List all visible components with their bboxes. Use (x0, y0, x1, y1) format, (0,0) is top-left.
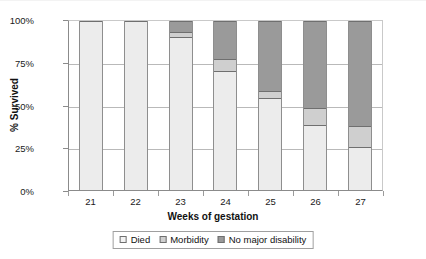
legend-item-no-major-disability[interactable]: No major disability (218, 234, 307, 245)
swatch-mid-icon (159, 236, 166, 243)
x-tick-label-21: 21 (71, 196, 111, 207)
bar-slot (69, 21, 114, 190)
x-tick-mark (203, 191, 204, 196)
bar-slot (337, 21, 382, 190)
segment-died (349, 148, 371, 190)
segment-died (259, 99, 281, 190)
y-tick-label-25: 25% (0, 143, 34, 154)
table-row[interactable] (348, 21, 372, 190)
y-tick-label-100: 100% (0, 15, 34, 26)
segment-morbidity (349, 127, 371, 147)
segment-died (125, 21, 147, 190)
bar-slot (248, 21, 293, 190)
y-tick-label-75: 75% (0, 57, 34, 68)
x-tick-mark (293, 191, 294, 196)
segment-died (80, 21, 102, 190)
legend-label-died: Died (131, 234, 151, 245)
x-tick-label-24: 24 (206, 196, 246, 207)
x-tick-label-25: 25 (251, 196, 291, 207)
segment-died (304, 126, 326, 190)
x-tick-mark (248, 191, 249, 196)
x-tick-label-27: 27 (341, 196, 381, 207)
bar-slot (203, 21, 248, 190)
x-tick-mark (68, 191, 69, 196)
x-tick-mark (383, 191, 384, 196)
bar-slot (158, 21, 203, 190)
y-tick-label-0: 0% (0, 186, 34, 197)
table-row[interactable] (303, 21, 327, 190)
x-axis-label: Weeks of gestation (0, 211, 426, 222)
x-tick-mark (113, 191, 114, 196)
segment-no-major-disability (214, 21, 236, 60)
swatch-dark-icon (218, 236, 225, 243)
y-tick-label-50: 50% (0, 100, 34, 111)
legend-item-died[interactable]: Died (120, 234, 151, 245)
legend-item-morbidity[interactable]: Morbidity (159, 234, 209, 245)
segment-died (214, 72, 236, 190)
segment-morbidity (259, 92, 281, 99)
x-tick-label-26: 26 (296, 196, 336, 207)
table-row[interactable] (258, 21, 282, 190)
x-tick-label-22: 22 (116, 196, 156, 207)
x-tick-mark (158, 191, 159, 196)
segment-died (170, 38, 192, 190)
segment-no-major-disability (349, 21, 371, 127)
x-tick-mark (338, 191, 339, 196)
scan-artifact-top (0, 0, 426, 1)
segment-no-major-disability (259, 21, 281, 92)
chart-figure: % Survived 100% 75% 50% 25% 0% (0, 0, 426, 259)
legend-label-no-major-disability: No major disability (229, 234, 307, 245)
bar-slot (114, 21, 159, 190)
plot-area (68, 20, 383, 191)
legend: Died Morbidity No major disability (113, 231, 314, 249)
table-row[interactable] (169, 21, 193, 190)
segment-no-major-disability (170, 21, 192, 33)
bar-slot (293, 21, 338, 190)
table-row[interactable] (213, 21, 237, 190)
swatch-light-icon (120, 236, 127, 243)
bar-group (69, 21, 382, 190)
segment-no-major-disability (304, 21, 326, 109)
segment-morbidity (214, 60, 236, 72)
table-row[interactable] (124, 21, 148, 190)
segment-morbidity (304, 109, 326, 126)
x-tick-label-23: 23 (161, 196, 201, 207)
table-row[interactable] (79, 21, 103, 190)
legend-label-morbidity: Morbidity (170, 234, 209, 245)
